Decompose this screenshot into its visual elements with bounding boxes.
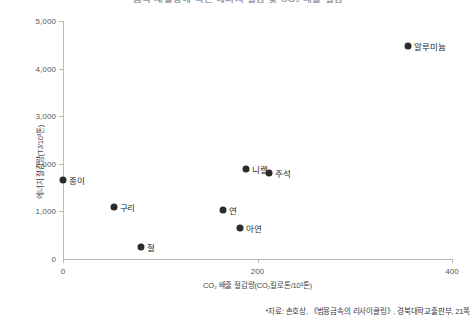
y-tick-mark <box>59 116 63 117</box>
y-tick-mark <box>59 21 63 22</box>
data-point-label: 철 <box>147 241 155 253</box>
y-tick-label: 3,000 <box>35 112 56 121</box>
x-tick-mark <box>258 259 259 263</box>
data-point[interactable] <box>236 225 243 232</box>
x-tick-mark <box>452 259 453 263</box>
data-point-label: 연 <box>229 204 237 216</box>
y-tick-label: 5,000 <box>35 17 56 26</box>
y-tick-label: 2,000 <box>35 159 56 168</box>
y-tick-label: 0 <box>51 255 56 264</box>
x-tick-label: 200 <box>251 267 265 276</box>
data-point-label: 주석 <box>275 167 291 179</box>
chart-figure: 금속 재활용에 따른 에너지 절감 및 CO₂ 배출 절감 에너지 절감량(TJ… <box>0 0 476 324</box>
x-tick-label: 400 <box>445 267 459 276</box>
y-tick-label: 1,000 <box>35 207 56 216</box>
data-point[interactable] <box>242 165 249 172</box>
data-point[interactable] <box>110 204 117 211</box>
x-tick-mark <box>63 259 64 263</box>
y-tick-mark <box>59 164 63 165</box>
x-axis-title: CO₂ 배출 절감량(CO₂킬로톤/10³톤) <box>63 279 452 290</box>
y-tick-label: 4,000 <box>35 64 56 73</box>
data-point[interactable] <box>266 170 273 177</box>
data-point[interactable] <box>220 207 227 214</box>
chart-title: 금속 재활용에 따른 에너지 절감 및 CO₂ 배출 절감 <box>0 0 476 3</box>
data-point-label: 아연 <box>246 222 262 234</box>
y-axis-line <box>63 21 64 259</box>
y-tick-mark <box>59 69 63 70</box>
x-tick-label: 0 <box>61 267 66 276</box>
data-point[interactable] <box>137 244 144 251</box>
y-tick-mark <box>59 211 63 212</box>
data-point[interactable] <box>405 42 412 49</box>
plot-area: 01,0002,0003,0004,0005,000 0200400 종이구리철… <box>63 21 452 259</box>
data-point-label: 구리 <box>120 201 136 213</box>
data-point[interactable] <box>60 176 67 183</box>
source-note: *자료: 손호상, 《범용금속의 리사이클링》, 경북대학교출판부, 21쪽 <box>266 305 470 316</box>
data-point-label: 종이 <box>69 174 85 186</box>
data-point-label: 알루미늄 <box>414 40 446 52</box>
